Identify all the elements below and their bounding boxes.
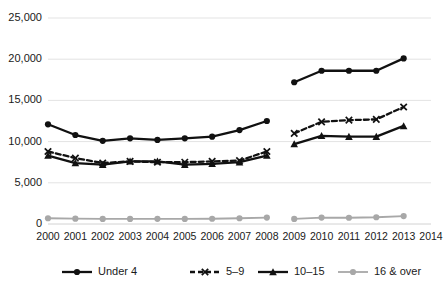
legend-label: 5–9 bbox=[226, 265, 244, 277]
data-series-group bbox=[44, 55, 407, 222]
legend-label: 16 & over bbox=[374, 265, 421, 277]
legend-item-10-15[interactable]: 10–15 bbox=[258, 265, 325, 277]
y-axis-tick-label: 0 bbox=[36, 217, 42, 229]
data-point-marker bbox=[318, 68, 324, 74]
data-point-marker bbox=[346, 68, 352, 74]
x-axis-tick-label: 2013 bbox=[392, 230, 416, 242]
legend-label: Under 4 bbox=[98, 265, 137, 277]
x-axis-tick-label: 2008 bbox=[255, 230, 279, 242]
y-axis-tick-label: 20,000 bbox=[8, 52, 42, 64]
x-axis-tick-label: 2014 bbox=[419, 230, 443, 242]
data-point-marker bbox=[401, 213, 407, 219]
data-point-marker bbox=[154, 137, 160, 143]
y-axis-tick-label: 15,000 bbox=[8, 93, 42, 105]
legend-item-16-over[interactable]: 16 & over bbox=[338, 265, 421, 277]
legend-item-under-4[interactable]: Under 4 bbox=[62, 265, 137, 277]
data-point-marker bbox=[373, 68, 379, 74]
data-point-marker bbox=[154, 216, 160, 222]
data-point-marker bbox=[264, 118, 270, 124]
legend-item-5-9[interactable]: 5–9 bbox=[190, 265, 244, 277]
y-axis-tick-label: 25,000 bbox=[8, 11, 42, 23]
series-16-over bbox=[45, 213, 407, 222]
x-axis-tick-labels: 2000200120022003200420052006200720082009… bbox=[36, 230, 443, 242]
x-axis-tick-label: 2003 bbox=[118, 230, 142, 242]
data-point-marker bbox=[45, 121, 51, 127]
data-point-marker bbox=[182, 216, 188, 222]
x-axis-tick-label: 2002 bbox=[91, 230, 115, 242]
x-axis-tick-label: 2009 bbox=[283, 230, 307, 242]
x-axis-tick-label: 2011 bbox=[338, 230, 361, 242]
series-under-4 bbox=[45, 55, 407, 144]
x-axis-tick-label: 2007 bbox=[228, 230, 252, 242]
data-point-marker bbox=[45, 215, 51, 221]
data-point-marker bbox=[346, 215, 352, 221]
data-point-marker bbox=[100, 216, 106, 222]
x-axis-tick-label: 2001 bbox=[64, 230, 88, 242]
data-point-marker bbox=[373, 214, 379, 220]
data-point-marker bbox=[127, 216, 133, 222]
data-point-marker bbox=[236, 215, 242, 221]
legend-label: 10–15 bbox=[294, 265, 325, 277]
x-axis-tick-label: 2010 bbox=[310, 230, 334, 242]
line-chart: 05,00010,00015,00020,00025,000 200020012… bbox=[0, 0, 444, 294]
data-point-marker bbox=[72, 216, 78, 222]
data-point-marker bbox=[318, 214, 324, 220]
data-point-marker bbox=[127, 135, 133, 141]
data-point-marker bbox=[264, 214, 270, 220]
y-axis-tick-label: 10,000 bbox=[8, 135, 42, 147]
x-axis-tick-label: 2012 bbox=[365, 230, 389, 242]
y-axis-tick-label: 5,000 bbox=[14, 176, 42, 188]
data-point-marker bbox=[100, 138, 106, 144]
data-point-marker bbox=[291, 216, 297, 222]
data-point-marker bbox=[291, 79, 297, 85]
data-point-marker bbox=[209, 216, 215, 222]
data-point-marker bbox=[400, 122, 408, 129]
legend-marker-circle-icon bbox=[74, 269, 80, 275]
data-point-marker bbox=[236, 127, 242, 133]
chart-canvas: 05,00010,00015,00020,00025,000 200020012… bbox=[0, 0, 444, 294]
legend-marker-circle-icon bbox=[350, 269, 356, 275]
x-axis-tick-label: 2005 bbox=[173, 230, 197, 242]
data-point-marker bbox=[209, 134, 215, 140]
y-axis-tick-labels: 05,00010,00015,00020,00025,000 bbox=[8, 11, 42, 229]
x-axis-tick-label: 2006 bbox=[200, 230, 224, 242]
data-point-marker bbox=[182, 135, 188, 141]
x-axis-tick-label: 2000 bbox=[36, 230, 60, 242]
data-point-marker bbox=[401, 55, 407, 61]
data-point-marker bbox=[72, 132, 78, 138]
series-5-9 bbox=[45, 104, 407, 166]
chart-legend: Under 45–910–1516 & over bbox=[62, 265, 421, 277]
x-axis-tick-label: 2004 bbox=[146, 230, 170, 242]
